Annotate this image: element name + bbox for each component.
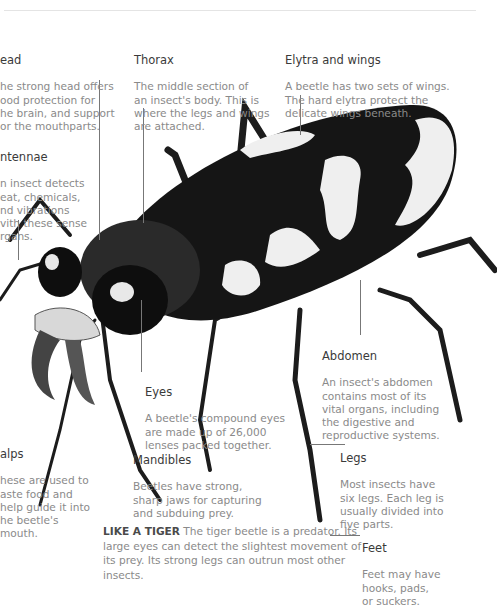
label-head: ead he strong head offers ood protection… [0, 40, 130, 133]
label-eyes-title: Eyes [145, 385, 315, 399]
caption-heading: LIKE A TIGER [103, 525, 180, 537]
eyes-pointer-line [141, 300, 142, 372]
abdomen-pointer-line [360, 280, 361, 335]
caption-like-a-tiger: LIKE A TIGER The tiger beetle is a preda… [103, 524, 363, 582]
label-thorax-title: Thorax [134, 53, 284, 67]
label-thorax: Thorax The middle section of an insect's… [134, 40, 284, 133]
label-antennae: ntennae n insect detects eat, chemicals,… [0, 137, 100, 243]
label-head-body: he strong head offers ood protection for… [0, 80, 115, 132]
label-thorax-body: The middle section of an insect's body. … [134, 80, 270, 132]
label-antennae-title: ntennae [0, 150, 100, 164]
label-head-title: ead [0, 53, 130, 67]
label-mandibles: Mandibles Beetles have strong, sharp jaw… [133, 440, 303, 520]
label-mandibles-body: Beetles have strong, sharp jaws for capt… [133, 480, 262, 518]
label-legs-title: Legs [340, 451, 490, 465]
label-feet-title: Feet [362, 541, 492, 555]
label-elytra-body: A beetle has two sets of wings. The hard… [285, 80, 450, 118]
label-abdomen-title: Abdomen [322, 349, 492, 363]
label-elytra-title: Elytra and wings [285, 53, 485, 67]
label-mandibles-title: Mandibles [133, 453, 303, 467]
label-palps-body: hese are used to aste food and help guid… [0, 474, 90, 539]
label-antennae-body: n insect detects eat, chemicals, nd vibr… [0, 177, 87, 242]
label-feet-body: Feet may have hooks, pads, or suckers. [362, 568, 441, 606]
label-legs: Legs Most insects have six legs. Each le… [340, 438, 490, 531]
label-feet: Feet Feet may have hooks, pads, or sucke… [362, 528, 492, 608]
label-abdomen-body: An insect's abdomen contains most of its… [322, 376, 440, 441]
label-abdomen: Abdomen An insect's abdomen contains mos… [322, 336, 492, 442]
label-legs-body: Most insects have six legs. Each leg is … [340, 478, 444, 530]
label-palps-title: alps [0, 447, 130, 461]
label-elytra: Elytra and wings A beetle has two sets o… [285, 40, 485, 120]
